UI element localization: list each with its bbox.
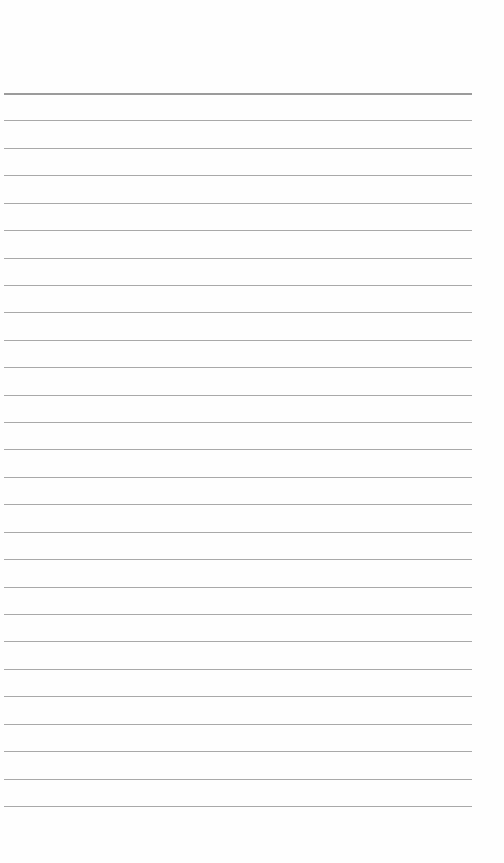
rule-line <box>4 724 472 725</box>
rule-line <box>4 669 472 670</box>
rule-line <box>4 422 472 423</box>
rule-line <box>4 559 472 560</box>
header-rule-line <box>4 93 472 95</box>
rule-line <box>4 285 472 286</box>
rule-line <box>4 148 472 149</box>
rule-line <box>4 175 472 176</box>
rule-line <box>4 203 472 204</box>
rule-line <box>4 449 472 450</box>
lined-paper-sheet <box>0 0 504 863</box>
rule-line <box>4 340 472 341</box>
rule-line <box>4 395 472 396</box>
rule-line <box>4 751 472 752</box>
rule-line <box>4 258 472 259</box>
rule-line <box>4 312 472 313</box>
rule-line <box>4 779 472 780</box>
rule-line <box>4 806 472 807</box>
rule-line <box>4 614 472 615</box>
rule-line <box>4 587 472 588</box>
rule-line <box>4 230 472 231</box>
rule-line <box>4 641 472 642</box>
rule-line <box>4 367 472 368</box>
rule-line <box>4 532 472 533</box>
rule-line <box>4 504 472 505</box>
rule-line <box>4 120 472 121</box>
rule-line <box>4 477 472 478</box>
rule-line <box>4 696 472 697</box>
